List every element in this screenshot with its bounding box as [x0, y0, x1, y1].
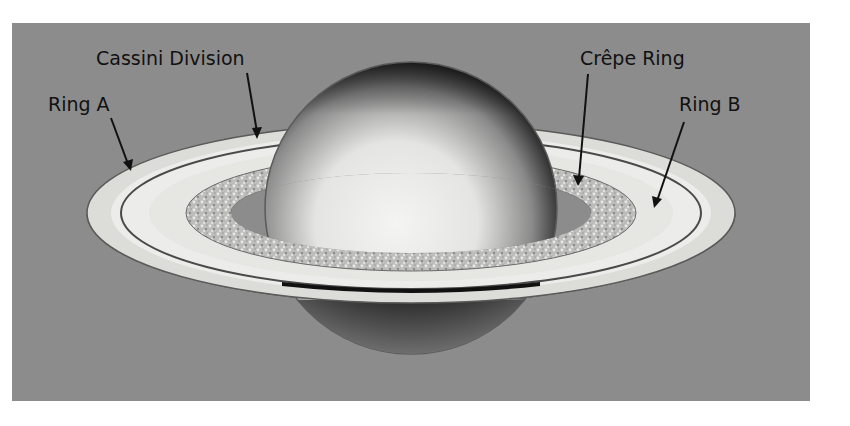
svg-text:Ring B: Ring B	[679, 93, 741, 115]
saturn-diagram: Cassini Division Ring A Crêpe Ring Ring …	[0, 0, 850, 426]
svg-text:Crêpe Ring: Crêpe Ring	[580, 47, 685, 69]
svg-text:Cassini Division: Cassini Division	[96, 47, 245, 69]
svg-text:Ring A: Ring A	[48, 93, 110, 115]
